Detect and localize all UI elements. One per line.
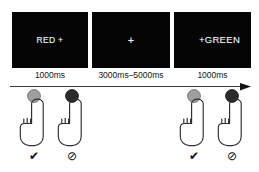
stimulus-text-red: RED + [37,36,64,45]
response-unit-2: ⊘ [50,88,94,166]
response-unit-4: ⊘ [210,88,254,166]
stimulus-text-green: +GREEN [185,35,240,45]
pointing-hand-icon-1 [20,99,43,146]
pointing-hand-icon-3 [180,99,203,146]
figure-canvas: RED + + +GREEN 1000ms 3000ms–5000ms 1000… [0,0,259,172]
hand-and-button-graphic-2 [50,88,94,150]
duration-label-green: 1000ms [174,69,251,82]
pointing-hand-icon-2 [58,99,81,146]
fixation-cross-text: + [128,35,135,46]
duration-label-fixation: 3000ms–5000ms [92,69,170,82]
duration-label-red: 1000ms [12,69,88,82]
outcome-icon-blocked-4: ⊘ [210,148,254,164]
stimulus-panel-fixation: + [92,12,170,68]
stimulus-panel-green: +GREEN [174,12,251,68]
outcome-icon-blocked-2: ⊘ [50,148,94,164]
hand-and-button-graphic-4 [210,88,254,150]
pointing-hand-icon-4 [218,99,241,146]
stimulus-panel-red: RED + [12,12,88,68]
